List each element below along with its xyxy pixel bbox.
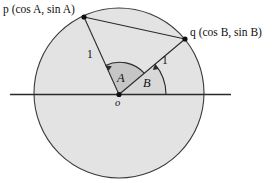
origin-label: o [115, 98, 120, 109]
unit-circle-figure: p (cos A, sin A) q (cos B, sin B) 1 1 A … [0, 0, 272, 183]
point-p-label: p (cos A, sin A) [3, 4, 75, 16]
angle-b-label: B [143, 77, 151, 90]
radius-op-length-label: 1 [87, 49, 93, 61]
point-q-marker [182, 36, 187, 41]
angle-a-label: A [117, 72, 125, 85]
radius-oq-length-label: 1 [162, 55, 168, 67]
point-p-marker [81, 14, 86, 19]
point-q-label: q (cos B, sin B) [190, 27, 262, 39]
